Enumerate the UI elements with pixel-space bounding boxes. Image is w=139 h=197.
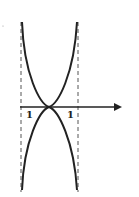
upper-curve <box>22 22 77 107</box>
label-left-one: 1 <box>26 109 33 120</box>
label-right-one: 1 <box>67 109 74 120</box>
stray-mark <box>2 25 3 26</box>
graph-diagram: 1 1 <box>0 0 139 197</box>
